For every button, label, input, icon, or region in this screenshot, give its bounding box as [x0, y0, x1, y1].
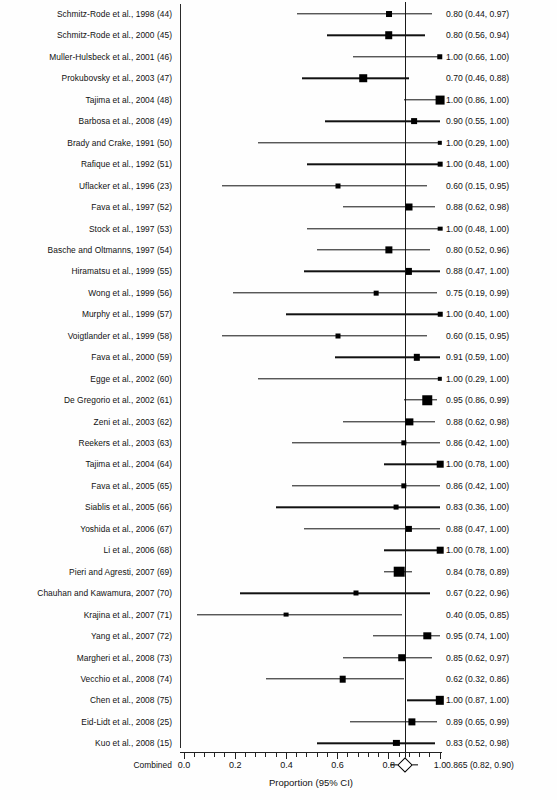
point-estimate-marker [408, 718, 415, 725]
point-estimate-marker [394, 505, 399, 510]
x-axis-tick-minor [317, 753, 318, 757]
point-estimate-marker [385, 32, 393, 40]
effect-value: 0.75 (0.19, 0.99) [446, 288, 557, 298]
point-estimate-marker [411, 118, 417, 124]
effect-value: 0.80 (0.52, 0.96) [446, 245, 557, 255]
x-axis-tick-minor [204, 753, 205, 757]
point-estimate-marker [394, 566, 405, 577]
point-estimate-marker [374, 291, 379, 296]
point-estimate-marker [402, 440, 407, 445]
point-estimate-marker [386, 11, 392, 17]
x-axis-tick-major [337, 753, 338, 759]
effect-value: 0.83 (0.36, 1.00) [446, 502, 557, 512]
confidence-interval-line [266, 678, 404, 679]
x-axis-tick-minor [224, 753, 225, 757]
effect-value: 1.00 (0.86, 1.00) [446, 95, 557, 105]
effect-value: 0.90 (0.55, 1.00) [446, 116, 557, 126]
point-estimate-marker [438, 376, 442, 380]
confidence-interval-line [292, 485, 440, 486]
effect-value: 1.00 (0.40, 1.00) [446, 309, 557, 319]
x-axis-tick-minor [378, 753, 379, 757]
point-estimate-marker [437, 547, 444, 554]
confidence-interval-line [317, 743, 435, 744]
point-estimate-marker [436, 696, 444, 704]
x-axis-tick-minor [194, 753, 195, 757]
x-axis-tick-minor [296, 753, 297, 757]
confidence-interval-line [343, 206, 435, 207]
effect-value: 1.00 (0.87, 1.00) [446, 695, 557, 705]
x-axis-tick-minor [276, 753, 277, 757]
effect-value: 0.70 (0.46, 0.88) [446, 73, 557, 83]
effect-value: 0.60 (0.15, 0.95) [446, 331, 557, 341]
x-axis-tick-minor [265, 753, 266, 757]
effect-value: 0.89 (0.65, 0.99) [446, 717, 557, 727]
confidence-interval-line [343, 657, 433, 658]
confidence-interval-line [384, 550, 440, 551]
x-axis-tick-minor [245, 753, 246, 757]
x-axis-tick-major [388, 753, 389, 759]
forest-plot-figure: Schmitz-Rode et al., 1998 (44)Schmitz-Ro… [0, 0, 557, 800]
confidence-interval-line [240, 592, 429, 593]
point-estimate-marker [437, 461, 444, 468]
effect-value: 0.40 (0.05, 0.85) [446, 610, 557, 620]
point-estimate-marker [284, 612, 289, 617]
confidence-interval-line [258, 378, 440, 379]
point-estimate-marker [422, 395, 431, 404]
x-axis-tick-major [184, 753, 185, 759]
point-estimate-marker [406, 418, 413, 425]
effect-value: 0.88 (0.62, 0.98) [446, 417, 557, 427]
x-axis-tick-label: 1.0 [420, 760, 460, 771]
effect-value: 0.85 (0.62, 0.97) [446, 653, 557, 663]
x-axis-tick-major [235, 753, 236, 759]
effect-value: 0.95 (0.86, 0.99) [446, 395, 557, 405]
confidence-interval-line [317, 249, 430, 250]
point-estimate-marker [438, 226, 443, 231]
confidence-interval-line [276, 507, 440, 508]
confidence-interval-line [307, 163, 440, 164]
point-estimate-marker [402, 483, 407, 488]
x-axis-tick-minor [419, 753, 420, 757]
effect-value: 0.84 (0.78, 0.89) [446, 567, 557, 577]
x-axis-tick-minor [399, 753, 400, 757]
confidence-interval-line [292, 442, 440, 443]
point-estimate-marker [406, 268, 412, 274]
effect-value: 0.60 (0.15, 0.95) [446, 181, 557, 191]
effect-value: 1.00 (0.78, 1.00) [446, 545, 557, 555]
x-axis-tick-minor [368, 753, 369, 757]
x-axis-tick-minor [214, 753, 215, 757]
point-estimate-marker [335, 333, 340, 338]
confidence-interval-line [222, 335, 427, 336]
effect-value: 0.80 (0.44, 0.97) [446, 9, 557, 19]
effect-value: 0.88 (0.47, 1.00) [446, 266, 557, 276]
x-axis-tick-label: 0.6 [318, 760, 358, 771]
x-axis-tick-label: 0.8 [369, 760, 409, 771]
x-axis-title: Proportion (95% CI) [180, 777, 442, 788]
confidence-interval-line [197, 614, 402, 615]
confidence-interval-line [353, 56, 440, 57]
confidence-interval-line [286, 314, 440, 315]
point-estimate-marker [385, 246, 392, 253]
effect-value: 0.86 (0.42, 1.00) [446, 481, 557, 491]
point-estimate-marker [438, 141, 442, 145]
x-axis-tick-minor [358, 753, 359, 757]
effect-value: 0.83 (0.52, 0.98) [446, 738, 557, 748]
effect-value: 0.67 (0.22, 0.96) [446, 588, 557, 598]
effect-value: 0.88 (0.62, 0.98) [446, 202, 557, 212]
confidence-interval-line [327, 35, 424, 36]
x-axis-tick-minor [306, 753, 307, 757]
effect-value: 0.95 (0.74, 1.00) [446, 631, 557, 641]
x-axis-tick-label: 0.2 [215, 760, 255, 771]
effect-value: 1.00 (0.48, 1.00) [446, 159, 557, 169]
confidence-interval-line [335, 356, 440, 357]
point-estimate-marker [437, 54, 442, 59]
x-axis-tick-major [440, 753, 441, 759]
x-axis-tick-minor [347, 753, 348, 757]
effect-value: 0.88 (0.47, 1.00) [446, 524, 557, 534]
point-estimate-marker [393, 740, 399, 746]
x-axis-tick-label: 0.0 [164, 760, 204, 771]
confidence-interval-line [258, 142, 440, 143]
point-estimate-marker [335, 183, 340, 188]
confidence-interval-line [222, 185, 427, 186]
effect-value: 1.00 (0.48, 1.00) [446, 224, 557, 234]
x-axis-tick-minor [409, 753, 410, 757]
